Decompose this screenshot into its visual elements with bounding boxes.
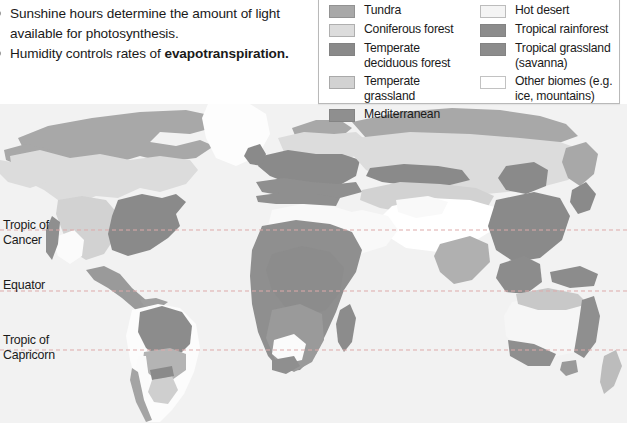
legend-swatch-tundra: [329, 5, 355, 18]
legend-item-tundra: Tundra: [319, 3, 468, 18]
legend-item-tropical-rainforest: Tropical rainforest: [470, 22, 619, 37]
label-tropic-of-cancer: Tropic of Cancer: [3, 218, 49, 248]
legend-item-temperate-deciduous-forest: Temperate deciduous forest: [319, 41, 468, 70]
legend-swatch-hot-desert: [480, 5, 506, 18]
legend-label-other-biomes: Other biomes (e.g. ice, mountains): [515, 74, 619, 103]
legend-label-hot-desert: Hot desert: [515, 3, 569, 18]
bullet-item-2: Humidity controls rates of evapotranspir…: [0, 44, 310, 64]
legend-swatch-tropical-grassland: [480, 43, 506, 56]
legend-swatch-coniferous-forest: [329, 24, 355, 37]
legend-swatch-tropical-rainforest: [480, 24, 506, 37]
bullet-2-text-bold: evapotranspiration.: [164, 46, 288, 61]
label-equator: Equator: [3, 278, 45, 293]
legend-label-tropical-grassland: Tropical grassland (savanna): [515, 41, 619, 70]
legend-label-temperate-grassland: Temperate grassland: [364, 74, 468, 103]
legend-item-other-biomes: Other biomes (e.g. ice, mountains): [470, 74, 619, 103]
label-equator-line1: Equator: [3, 278, 45, 293]
legend-label-tundra: Tundra: [364, 3, 401, 18]
legend-item-temperate-grassland: Temperate grassland: [319, 74, 468, 103]
bullet-2-text: Humidity controls rates of evapotranspir…: [10, 44, 310, 64]
label-tropic-of-cancer-line2: Cancer: [3, 233, 49, 248]
legend-item-mediterranean: Mediterranean: [319, 107, 468, 122]
legend-swatch-other-biomes: [480, 76, 506, 89]
legend-item-hot-desert: Hot desert: [470, 3, 619, 18]
legend-swatch-temperate-grassland: [329, 76, 355, 89]
legend-item-tropical-grassland: Tropical grassland (savanna): [470, 41, 619, 70]
label-tropic-of-capricorn-line2: Capricorn: [3, 348, 55, 363]
map-legend: Tundra Coniferous forest Temperate decid…: [318, 0, 620, 104]
legend-label-coniferous-forest: Coniferous forest: [364, 22, 453, 37]
label-tropic-of-capricorn: Tropic of Capricorn: [3, 333, 55, 363]
legend-swatch-mediterranean: [329, 109, 355, 122]
bullet-item-1: Sunshine hours determine the amount of l…: [0, 4, 310, 44]
legend-swatch-temperate-deciduous-forest: [329, 43, 355, 56]
slide-text-block: Sunshine hours determine the amount of l…: [0, 0, 320, 104]
label-tropic-of-capricorn-line1: Tropic of: [3, 333, 55, 348]
legend-label-mediterranean: Mediterranean: [364, 107, 440, 122]
legend-label-temperate-deciduous-forest: Temperate deciduous forest: [364, 41, 464, 70]
bullet-2-text-plain: Humidity controls rates of: [10, 46, 164, 61]
legend-item-coniferous-forest: Coniferous forest: [319, 22, 468, 37]
label-tropic-of-cancer-line1: Tropic of: [3, 218, 49, 233]
map-canvas: [0, 104, 627, 423]
bullet-1-text: Sunshine hours determine the amount of l…: [10, 4, 310, 44]
bullet-dot-icon: [0, 51, 1, 56]
legend-column-left: Tundra Coniferous forest Temperate decid…: [319, 3, 468, 126]
world-biome-map: Tropic of Cancer Equator Tropic of Capri…: [0, 104, 627, 423]
bullet-dot-icon: [0, 11, 1, 16]
legend-column-right: Hot desert Tropical rainforest Tropical …: [468, 3, 619, 126]
legend-label-tropical-rainforest: Tropical rainforest: [515, 22, 608, 37]
